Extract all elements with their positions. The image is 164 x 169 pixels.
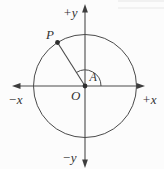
figure-canvas: +y −y −x +x O P A bbox=[0, 0, 164, 169]
label-plus-x: +x bbox=[142, 92, 157, 107]
label-minus-x: −x bbox=[8, 92, 23, 107]
x-axis-right-arrowhead-icon bbox=[137, 83, 146, 89]
origin-point bbox=[83, 84, 88, 89]
point-p bbox=[55, 40, 60, 45]
label-plus-y: +y bbox=[63, 5, 78, 20]
label-origin: O bbox=[71, 88, 81, 103]
y-axis-bottom-arrowhead-icon bbox=[82, 160, 88, 169]
y-axis-top-arrowhead-icon bbox=[82, 4, 88, 13]
label-angle-a: A bbox=[89, 70, 98, 84]
label-minus-y: −y bbox=[62, 150, 77, 165]
label-point-p: P bbox=[45, 27, 54, 42]
coordinate-diagram: +y −y −x +x O P A bbox=[0, 0, 164, 169]
scan-artifact bbox=[118, 0, 164, 9]
x-axis-left-arrowhead-icon bbox=[12, 83, 21, 89]
radius-op-line bbox=[58, 43, 86, 87]
